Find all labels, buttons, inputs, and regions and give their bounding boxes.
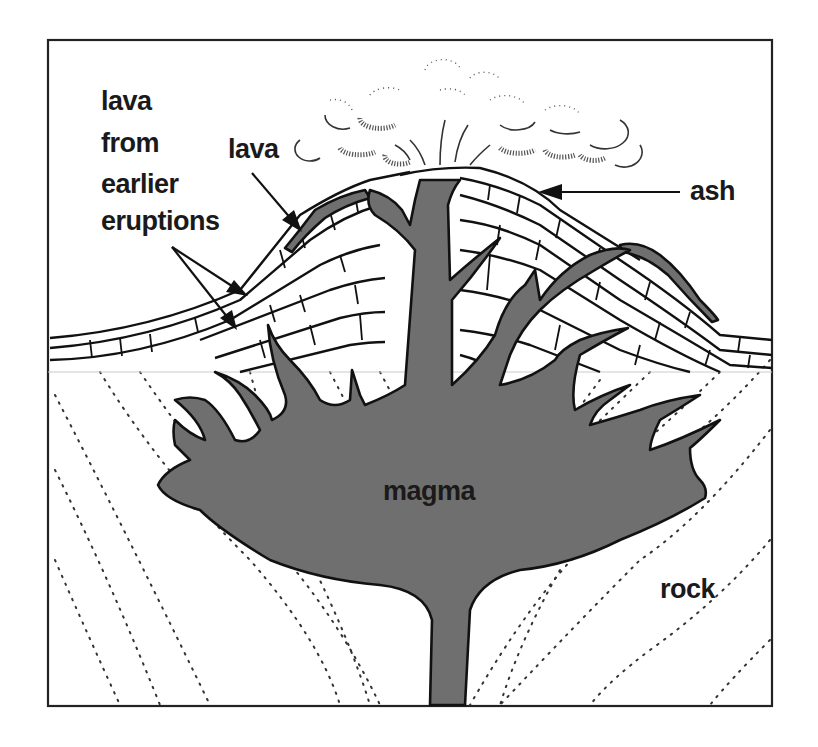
- label-ash: ash: [690, 176, 735, 206]
- magma-chamber: [158, 180, 720, 705]
- label-earlier-lava-1: lava: [101, 86, 153, 116]
- label-magma: magma: [383, 476, 477, 506]
- ash-cloud: [295, 60, 642, 167]
- volcano-diagram: lava from earlier eruptions lava ash mag…: [0, 0, 818, 747]
- label-lava: lava: [228, 134, 280, 164]
- label-earlier-lava-2: from: [101, 128, 159, 158]
- lava-flow-right: [620, 244, 718, 322]
- label-earlier-lava-3: earlier: [101, 169, 180, 199]
- label-earlier-lava-4: eruptions: [101, 206, 220, 236]
- label-rock: rock: [660, 574, 717, 604]
